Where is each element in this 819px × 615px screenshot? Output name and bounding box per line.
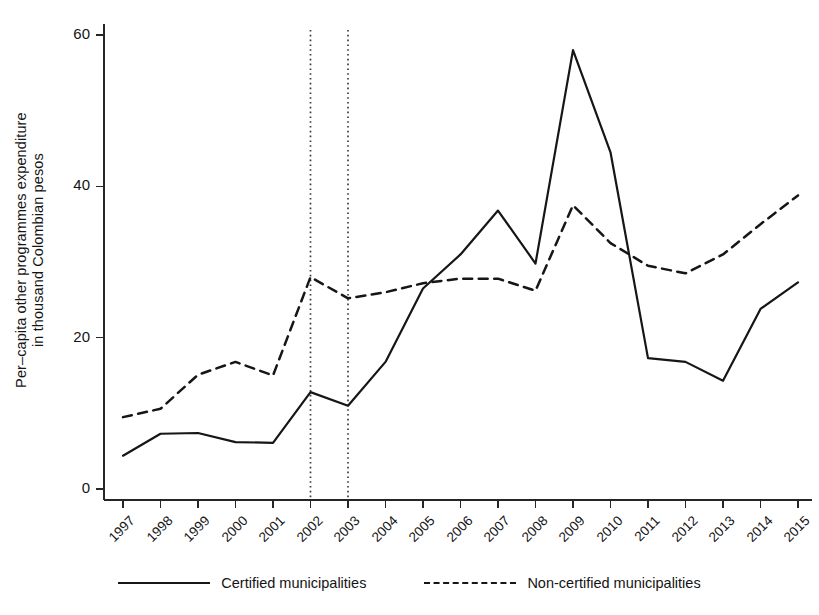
data-series	[123, 50, 798, 456]
legend-item-non-certified: Non-certified municipalities	[424, 575, 700, 591]
legend-item-certified: Certified municipalities	[118, 575, 366, 591]
y-tick-label-20: 20	[56, 328, 90, 345]
legend-label-certified: Certified municipalities	[221, 575, 366, 591]
series-line-certified	[123, 50, 798, 456]
y-tick-label-60: 60	[56, 25, 90, 42]
y-tick-label-0: 0	[56, 479, 90, 496]
y-tick-label-40: 40	[56, 176, 90, 193]
chart-legend: Certified municipalities Non-certified m…	[0, 566, 819, 600]
legend-swatch-solid-line-icon	[118, 582, 210, 584]
chart-figure: Per–capita other programmes expenditure …	[0, 0, 819, 615]
event-vlines	[311, 30, 349, 500]
legend-label-non-certified: Non-certified municipalities	[527, 575, 700, 591]
legend-swatch-dashed-line-icon	[424, 582, 516, 584]
series-line-non-certified	[123, 195, 798, 417]
